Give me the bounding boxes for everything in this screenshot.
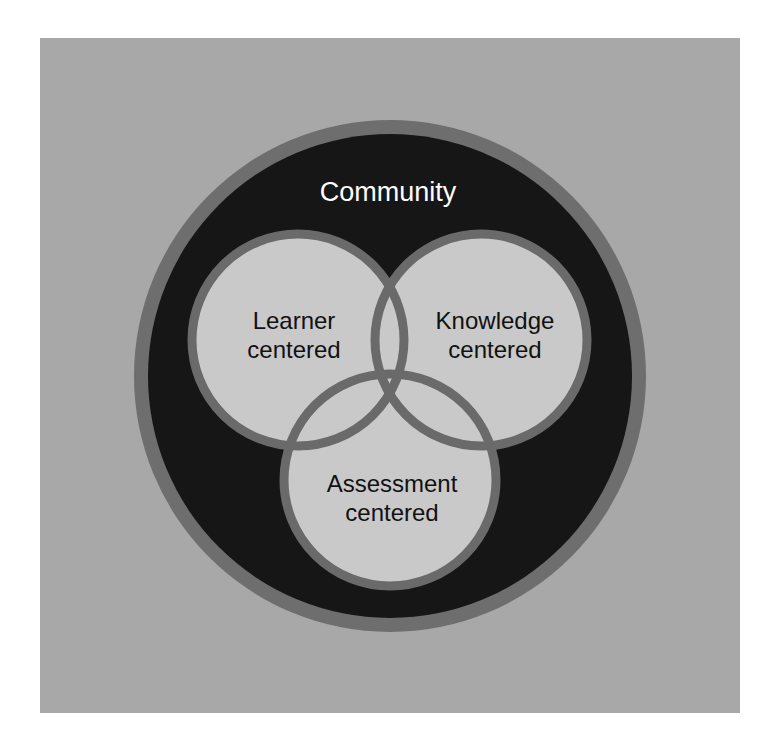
knowledge-label-line2: centered <box>448 336 541 363</box>
learner-label-line2: centered <box>247 336 340 363</box>
assessment-label-line1: Assessment <box>327 470 458 497</box>
venn-diagram: Community Learner centered Knowledge cen… <box>0 0 775 750</box>
knowledge-label-line1: Knowledge <box>436 307 555 334</box>
community-label: Community <box>320 177 457 207</box>
assessment-label-line2: centered <box>345 499 438 526</box>
learner-label-line1: Learner <box>253 307 336 334</box>
